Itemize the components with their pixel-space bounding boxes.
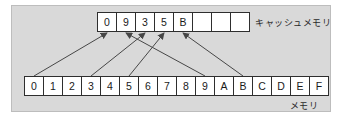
diagram-panel: 0935B キャッシュメモリ 0123456789ABCDEF メモリ (11, 5, 331, 112)
cache-memory-diagram: 0935B キャッシュメモリ 0123456789ABCDEF メモリ (0, 0, 343, 119)
memory-cell: 1 (43, 76, 63, 96)
memory-cell: 2 (62, 76, 82, 96)
cache-cell: 9 (116, 12, 136, 32)
memory-cell: 5 (119, 76, 139, 96)
cache-cell (230, 12, 250, 32)
memory-cell: 8 (176, 76, 196, 96)
memory-cell: B (233, 76, 253, 96)
cache-label: キャッシュメモリ (255, 16, 331, 29)
memory-cell: E (290, 76, 310, 96)
mapping-arrow-5 (129, 33, 164, 76)
memory-row: 0123456789ABCDEF (24, 76, 329, 96)
cache-cell (192, 12, 212, 32)
cache-cell: 0 (97, 12, 117, 32)
cache-cell (211, 12, 231, 32)
cache-row: 0935B (97, 12, 250, 32)
mapping-arrow-9 (126, 33, 205, 76)
memory-cell: C (252, 76, 272, 96)
memory-cell: 6 (138, 76, 158, 96)
cache-cell: B (173, 12, 193, 32)
memory-cell: A (214, 76, 234, 96)
memory-cell: D (271, 76, 291, 96)
memory-cell: 3 (81, 76, 101, 96)
memory-cell: 4 (100, 76, 120, 96)
cache-cell: 5 (154, 12, 174, 32)
mapping-arrow-3 (91, 33, 145, 76)
memory-cell: 0 (24, 76, 44, 96)
memory-cell: F (309, 76, 329, 96)
mapping-arrow-0 (34, 33, 107, 76)
memory-cell: 9 (195, 76, 215, 96)
mapping-arrow-B (183, 33, 243, 76)
memory-label: メモリ (254, 99, 318, 112)
cache-cell: 3 (135, 12, 155, 32)
memory-cell: 7 (157, 76, 177, 96)
